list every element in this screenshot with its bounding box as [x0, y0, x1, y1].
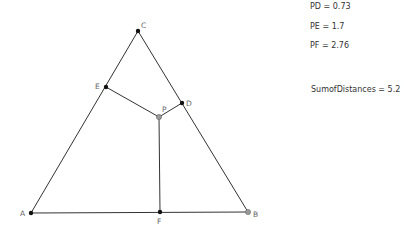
- point-b[interactable]: [245, 209, 250, 214]
- point-e[interactable]: [104, 85, 108, 89]
- segment-ab[interactable]: [31, 212, 248, 213]
- measurement-pf: PF = 2.76: [310, 41, 349, 50]
- segment-ca[interactable]: [31, 31, 138, 213]
- segment-pf[interactable]: [159, 117, 160, 212]
- point-c[interactable]: [136, 29, 140, 33]
- label-p: P: [162, 105, 167, 114]
- label-d: D: [186, 99, 192, 108]
- segment-bc[interactable]: [138, 31, 248, 212]
- label-a: A: [20, 209, 26, 218]
- label-b: B: [253, 210, 258, 219]
- measurement-pe: PE = 1.7: [310, 22, 344, 31]
- point-d[interactable]: [180, 101, 184, 105]
- measurement-sum-of-distances: SumofDistances = 5.2: [311, 85, 400, 94]
- label-c: C: [141, 21, 146, 30]
- label-e: E: [95, 82, 100, 91]
- geometry-canvas[interactable]: A B C D E F P: [0, 0, 414, 229]
- segment-pe[interactable]: [106, 87, 159, 117]
- point-a[interactable]: [29, 211, 33, 215]
- point-f[interactable]: [158, 210, 162, 214]
- point-p[interactable]: [156, 114, 161, 119]
- measurement-pd: PD = 0.73: [310, 2, 351, 11]
- label-f: F: [157, 217, 161, 226]
